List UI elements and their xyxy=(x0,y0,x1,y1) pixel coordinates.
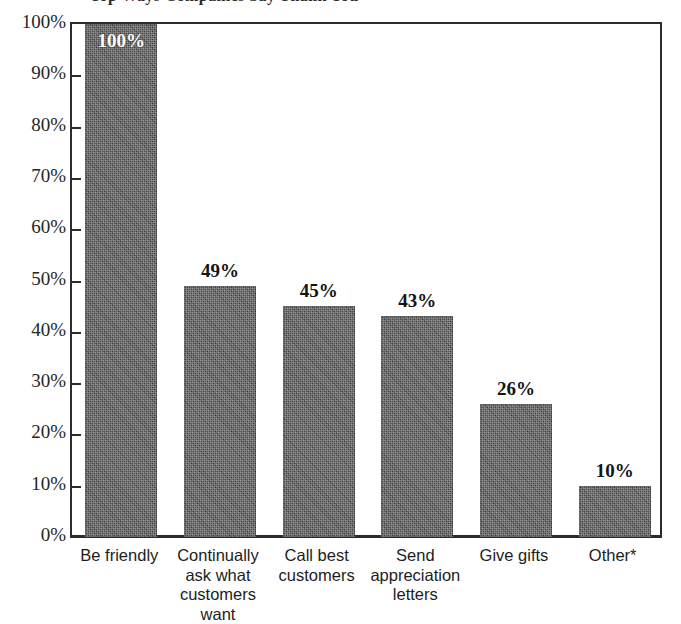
x-axis-label-line: Send xyxy=(360,546,471,566)
y-tick-mark xyxy=(72,229,81,231)
y-tick-mark xyxy=(72,281,81,283)
y-tick-mark xyxy=(72,178,81,180)
x-axis-label-line: ask what xyxy=(163,566,274,586)
x-axis-label: Other* xyxy=(557,546,668,566)
y-tick-label: 10% xyxy=(0,473,66,495)
bar-value-label: 26% xyxy=(461,378,571,400)
x-axis-label-line: Give gifts xyxy=(459,546,570,566)
bar xyxy=(184,286,256,537)
x-axis-label: Call bestcustomers xyxy=(261,546,372,585)
bar-value-label: 45% xyxy=(264,280,374,302)
y-axis-labels: 100%90%80%70%60%50%40%30%20%10%0% xyxy=(0,0,66,614)
x-axis-label: Continuallyask whatcustomers want xyxy=(163,546,274,624)
chart-title-text: Top Ways Companies Say Thank You xyxy=(90,0,358,5)
y-tick-label: 70% xyxy=(0,165,66,187)
y-tick-label: 60% xyxy=(0,216,66,238)
y-tick-mark xyxy=(72,127,81,129)
y-tick-label: 100% xyxy=(0,11,66,33)
x-axis-label-line: customers xyxy=(261,566,372,586)
x-axis-label: Be friendly xyxy=(64,546,175,566)
x-axis-label-line: Continually xyxy=(163,546,274,566)
x-axis-labels: Be friendlyContinuallyask whatcustomers … xyxy=(70,546,662,614)
bars-layer: 100%49%45%43%26%10% xyxy=(72,24,664,537)
y-tick-mark xyxy=(72,383,81,385)
y-tick-label: 50% xyxy=(0,268,66,290)
bar xyxy=(480,404,552,537)
y-tick-label: 40% xyxy=(0,319,66,341)
y-tick-label: 30% xyxy=(0,370,66,392)
bar-value-label: 10% xyxy=(560,460,670,482)
bar xyxy=(579,486,651,537)
y-tick-label: 80% xyxy=(0,114,66,136)
bar xyxy=(381,316,453,537)
x-axis-label-line: letters xyxy=(360,585,471,605)
x-axis-label-line: Other* xyxy=(557,546,668,566)
plot-area: 100%49%45%43%26%10% xyxy=(70,22,662,538)
bar-value-label: 100% xyxy=(66,30,176,52)
y-tick-label: 90% xyxy=(0,62,66,84)
y-tick-mark xyxy=(72,486,81,488)
x-axis-label-line: Call best xyxy=(261,546,372,566)
y-tick-label: 0% xyxy=(0,524,66,546)
y-tick-label: 20% xyxy=(0,421,66,443)
x-axis-label: Sendappreciationletters xyxy=(360,546,471,605)
x-axis-label-line: customers want xyxy=(163,585,274,624)
y-tick-mark xyxy=(72,332,81,334)
bar xyxy=(283,306,355,537)
bar-value-label: 49% xyxy=(165,260,275,282)
y-tick-mark xyxy=(72,75,81,77)
x-axis-label-line: appreciation xyxy=(360,566,471,586)
bar xyxy=(85,24,157,537)
y-tick-mark xyxy=(72,434,81,436)
x-axis-label: Give gifts xyxy=(459,546,570,566)
bar-value-label: 43% xyxy=(362,290,472,312)
x-axis-label-line: Be friendly xyxy=(64,546,175,566)
chart-title-cropped: Top Ways Companies Say Thank You xyxy=(0,0,681,14)
